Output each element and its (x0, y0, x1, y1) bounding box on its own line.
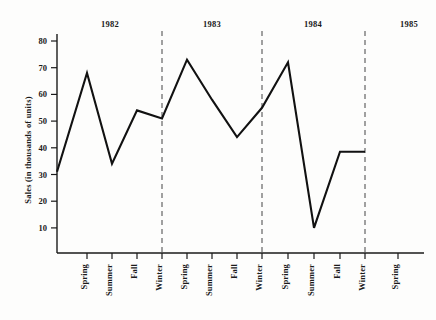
x-tick-label-summer-1982: Summer (104, 264, 114, 296)
x-tick-label-spring-1984: Spring (280, 263, 290, 289)
x-tick-label-fall-1983: Fall (229, 264, 239, 279)
chart-canvas: Sales (in thousands of units) 80 70 60 5… (0, 0, 436, 320)
year-labels: 1982 1983 1984 1985 (101, 19, 418, 29)
y-tick-label-50: 50 (39, 116, 48, 126)
sales-line-series (57, 60, 365, 228)
year-dividers (162, 31, 365, 256)
year-label-1985: 1985 (400, 19, 418, 29)
x-tick-label-summer-1983: Summer (204, 264, 214, 296)
x-tick-label-spring-1983: Spring (179, 263, 189, 289)
x-tick-label-winter-1982: Winter (154, 264, 164, 291)
seasonal-sales-line-chart: Sales (in thousands of units) 80 70 60 5… (0, 0, 436, 320)
year-label-1984: 1984 (304, 19, 323, 29)
y-tick-label-70: 70 (39, 63, 48, 73)
x-tick-label-winter-1983: Winter (254, 264, 264, 291)
x-tick-label-winter-1984: Winter (357, 264, 367, 291)
x-axis-ticks (87, 253, 398, 259)
y-tick-label-60: 60 (39, 89, 48, 99)
y-tick-label-40: 40 (39, 143, 48, 153)
y-axis-tick-labels: 80 70 60 50 40 30 20 10 (39, 36, 48, 233)
y-tick-label-10: 10 (39, 223, 48, 233)
x-tick-label-fall-1982: Fall (129, 264, 139, 279)
year-label-1982: 1982 (101, 19, 119, 29)
y-axis-label: Sales (in thousands of units) (23, 96, 33, 203)
y-axis-ticks (51, 41, 57, 228)
x-tick-label-summer-1984: Summer (306, 264, 316, 296)
y-tick-label-20: 20 (39, 196, 48, 206)
y-tick-label-30: 30 (39, 170, 48, 180)
x-tick-label-fall-1984: Fall (332, 264, 342, 279)
x-tick-label-spring-1985: Spring (390, 263, 400, 289)
x-tick-label-spring-1982: Spring (79, 263, 89, 289)
x-axis-tick-labels: Spring Summer Fall Winter Spring Summer … (79, 263, 400, 296)
year-label-1983: 1983 (203, 19, 221, 29)
y-tick-label-80: 80 (39, 36, 48, 46)
